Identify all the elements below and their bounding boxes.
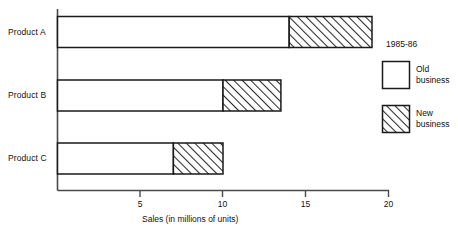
x-tick-label-20: 20 [376, 199, 402, 209]
category-label-product-c: Product C [8, 153, 47, 163]
bar-product-a-new-business [289, 17, 372, 48]
x-tick-label-5: 5 [127, 199, 153, 209]
x-tick-label-10: 10 [210, 199, 236, 209]
bar-chart: Product A Product B Product C 5 10 15 20… [0, 0, 458, 233]
bar-product-c-old-business [58, 143, 174, 174]
legend-label-old-business: Old business [416, 64, 450, 85]
bar-product-a-old-business [58, 17, 290, 48]
bar-product-b-new-business [223, 80, 281, 111]
category-label-product-b: Product B [8, 90, 46, 100]
x-tick-label-15: 15 [293, 199, 319, 209]
legend-swatch-new-business [383, 106, 410, 133]
legend-swatch-old-business [383, 62, 410, 89]
category-label-product-a: Product A [8, 27, 46, 37]
x-axis-title: Sales (in millions of units) [142, 214, 238, 224]
bar-product-b-old-business [58, 80, 224, 111]
legend-label-new-business: New business [416, 108, 450, 129]
legend-title: 1985-86 [386, 39, 417, 49]
bar-product-c-new-business [173, 143, 223, 174]
